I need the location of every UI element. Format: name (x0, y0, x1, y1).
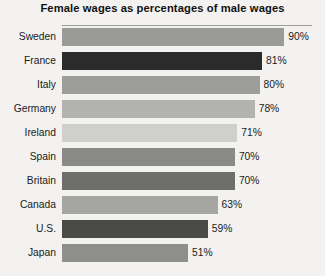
value-label: 59% (212, 220, 233, 238)
category-label: Spain (0, 148, 56, 166)
category-label: Italy (0, 76, 56, 94)
bar-chart: Female wages as percentages of male wage… (0, 0, 325, 276)
category-label: Sweden (0, 28, 56, 46)
bar-row: Canada63% (0, 196, 325, 214)
bar-row: Spain70% (0, 148, 325, 166)
bar (62, 196, 218, 214)
bar-row: Britain70% (0, 172, 325, 190)
bar-row: Ireland71% (0, 124, 325, 142)
bar-row: Germany78% (0, 100, 325, 118)
bar-row: Sweden90% (0, 28, 325, 46)
value-label: 78% (259, 100, 280, 118)
bar (62, 148, 235, 166)
bar (62, 172, 235, 190)
bar-row: U.S.59% (0, 220, 325, 238)
value-label: 80% (264, 76, 285, 94)
category-label: Canada (0, 196, 56, 214)
bar (62, 220, 208, 238)
bar (62, 244, 188, 262)
bar (62, 124, 237, 142)
bar-row: Japan51% (0, 244, 325, 262)
value-label: 70% (239, 148, 260, 166)
title-divider (62, 25, 312, 26)
bar (62, 76, 260, 94)
plot-area: Sweden90%France81%Italy80%Germany78%Irel… (0, 28, 325, 272)
category-label: U.S. (0, 220, 56, 238)
category-label: France (0, 52, 56, 70)
value-label: 81% (266, 52, 287, 70)
bar (62, 52, 262, 70)
category-label: Ireland (0, 124, 56, 142)
bar (62, 100, 255, 118)
value-label: 63% (222, 196, 243, 214)
chart-title: Female wages as percentages of male wage… (0, 2, 325, 14)
value-label: 90% (288, 28, 309, 46)
bar-row: France81% (0, 52, 325, 70)
value-label: 71% (241, 124, 262, 142)
bar (62, 28, 284, 46)
category-label: Japan (0, 244, 56, 262)
value-label: 51% (192, 244, 213, 262)
value-label: 70% (239, 172, 260, 190)
category-label: Germany (0, 100, 56, 118)
bar-row: Italy80% (0, 76, 325, 94)
category-label: Britain (0, 172, 56, 190)
